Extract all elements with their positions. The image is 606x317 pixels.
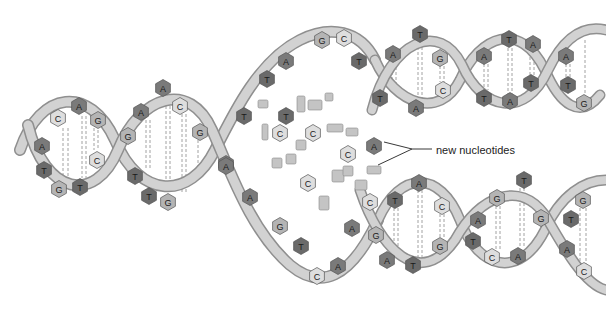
new-nucleotides-label: new nucleotides <box>436 144 515 156</box>
base-a: A <box>367 138 382 155</box>
base-c: C <box>341 146 356 163</box>
svg-text:C: C <box>367 198 374 208</box>
svg-text:A: A <box>530 40 536 50</box>
svg-text:T: T <box>283 112 289 122</box>
base-a: A <box>156 80 171 97</box>
base-a: A <box>526 36 541 53</box>
nucleotide-fragment <box>297 96 305 112</box>
nucleotide-fragment <box>325 93 333 101</box>
svg-text:G: G <box>580 99 587 109</box>
base-c: C <box>301 175 316 192</box>
nucleotide-fragment <box>258 100 268 108</box>
label-pointer-lines <box>378 142 432 165</box>
svg-text:G: G <box>276 222 283 232</box>
svg-text:T: T <box>241 112 247 122</box>
svg-text:C: C <box>277 129 284 139</box>
svg-text:G: G <box>579 196 586 206</box>
svg-text:C: C <box>581 267 588 277</box>
svg-text:G: G <box>55 185 62 195</box>
svg-text:A: A <box>335 262 341 272</box>
base-t: T <box>524 75 539 92</box>
svg-text:A: A <box>475 216 481 226</box>
svg-text:A: A <box>563 52 569 62</box>
base-t: T <box>279 108 294 125</box>
base-t: T <box>352 53 367 70</box>
svg-text:A: A <box>515 252 521 262</box>
base-a: A <box>511 248 526 265</box>
base-c: C <box>436 82 451 99</box>
nucleotide-fragment <box>319 196 329 210</box>
svg-text:T: T <box>410 261 416 271</box>
base-g: G <box>433 238 448 255</box>
svg-text:C: C <box>55 114 62 124</box>
base-t: T <box>517 172 532 189</box>
base-t: T <box>564 211 579 228</box>
svg-text:T: T <box>521 176 527 186</box>
svg-text:G: G <box>124 132 131 142</box>
svg-text:T: T <box>146 192 152 202</box>
svg-text:A: A <box>564 245 570 255</box>
svg-text:T: T <box>356 57 362 67</box>
svg-text:C: C <box>489 253 496 263</box>
svg-text:G: G <box>318 36 325 46</box>
base-c: C <box>310 268 325 285</box>
nucleotide-fragment <box>332 170 344 182</box>
svg-text:A: A <box>384 256 390 266</box>
svg-text:T: T <box>77 183 83 193</box>
base-t: T <box>502 31 517 48</box>
svg-text:A: A <box>39 142 45 152</box>
base-a: A <box>412 175 427 192</box>
svg-text:C: C <box>440 86 447 96</box>
svg-text:C: C <box>305 179 312 189</box>
svg-text:T: T <box>264 75 270 85</box>
svg-text:T: T <box>417 30 423 40</box>
svg-text:T: T <box>298 242 304 252</box>
svg-text:T: T <box>528 79 534 89</box>
svg-text:C: C <box>345 150 352 160</box>
base-g: G <box>273 218 288 235</box>
nucleotide-fragment <box>308 100 322 110</box>
nucleotide-fragment <box>367 166 381 174</box>
svg-text:T: T <box>377 94 383 104</box>
base-a: A <box>345 220 360 237</box>
svg-text:G: G <box>164 198 171 208</box>
svg-text:A: A <box>390 50 396 60</box>
nucleotide-fragment <box>327 124 343 132</box>
nucleotide-fragment <box>262 124 268 140</box>
svg-text:A: A <box>413 104 419 114</box>
nucleotide-fragment <box>343 166 353 176</box>
nucleotide-fragment <box>296 140 306 150</box>
svg-text:G: G <box>436 54 443 64</box>
nucleotide-fragment <box>272 158 282 168</box>
base-a: A <box>503 93 518 110</box>
svg-text:C: C <box>314 272 321 282</box>
svg-text:T: T <box>41 166 47 176</box>
svg-text:A: A <box>507 97 513 107</box>
base-c: C <box>306 125 321 142</box>
svg-text:G: G <box>196 128 203 138</box>
svg-text:T: T <box>470 237 476 247</box>
base-g: G <box>433 50 448 67</box>
svg-text:G: G <box>436 242 443 252</box>
svg-text:A: A <box>76 102 82 112</box>
svg-text:G: G <box>94 116 101 126</box>
svg-text:A: A <box>160 84 166 94</box>
svg-text:G: G <box>493 194 500 204</box>
svg-text:C: C <box>177 102 184 112</box>
svg-text:T: T <box>392 196 398 206</box>
svg-text:T: T <box>132 172 138 182</box>
svg-text:T: T <box>565 81 571 91</box>
svg-text:A: A <box>247 193 253 203</box>
svg-text:T: T <box>506 35 512 45</box>
svg-text:A: A <box>416 179 422 189</box>
svg-text:G: G <box>372 231 379 241</box>
base-g: G <box>577 95 592 112</box>
new-nucleotides-label-group: new nucleotides <box>378 142 515 165</box>
nucleotide-fragment <box>286 154 296 164</box>
base-t: T <box>294 238 309 255</box>
base-t: T <box>413 26 428 43</box>
base-c: C <box>273 125 288 142</box>
base-t: T <box>561 77 576 94</box>
base-a: A <box>386 46 401 63</box>
svg-text:A: A <box>371 142 377 152</box>
